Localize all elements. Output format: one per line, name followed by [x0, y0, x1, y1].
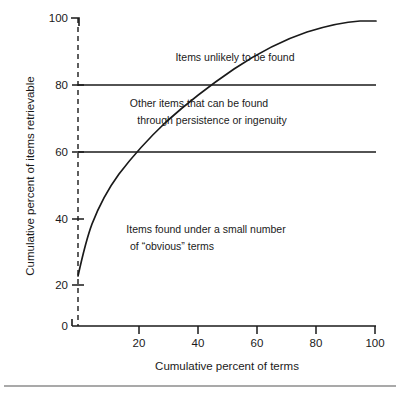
y-tick-label-60: 60	[55, 146, 68, 158]
figure-container: 100 80 60 40 20 0 20 40 60 80 100 Items …	[0, 0, 399, 398]
y-axis-title: Cumulative percent of items retrievable	[24, 76, 36, 275]
y-tick-label-40: 40	[55, 213, 68, 225]
x-tick-label-80: 80	[310, 337, 323, 349]
x-tick-label-20: 20	[133, 337, 146, 349]
y-tick-label-100: 100	[49, 12, 68, 24]
annotation-zone-obvious-line1: Items found under a small number	[126, 223, 286, 235]
x-tick-label-100: 100	[365, 337, 384, 349]
x-tick-label-60: 60	[251, 337, 264, 349]
annotation-zone-persistence-line2: through persistence or ingenuity	[137, 114, 287, 126]
x-tick-label-40: 40	[192, 337, 205, 349]
y-tick-label-80: 80	[55, 79, 68, 91]
annotation-zone-obvious-line2: of “obvious” terms	[130, 240, 214, 252]
y-tick-label-20: 20	[55, 279, 68, 291]
annotation-zone-unlikely: Items unlikely to be found	[175, 51, 294, 63]
y-tick-label-0: 0	[62, 320, 68, 332]
chart-canvas: 100 80 60 40 20 0 20 40 60 80 100 Items …	[0, 0, 399, 398]
x-axis-title: Cumulative percent of terms	[155, 360, 299, 372]
annotation-zone-persistence-line1: Other items that can be found	[130, 97, 268, 109]
